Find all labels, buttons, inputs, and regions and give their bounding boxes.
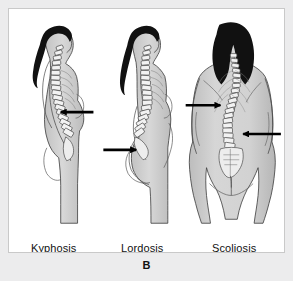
spinal-deformities-illustration [9,9,284,252]
figure-label-scoliosis: Scoliosis [212,242,256,253]
figure-label-lordosis: Lordosis [121,242,163,253]
kyphosis-figure [33,26,94,224]
scoliosis-figure [186,22,281,223]
panel-letter: B [0,259,293,271]
figure-label-kyphosis: Kyphosis [31,242,76,253]
illustration-panel: Kyphosis Lordosis Scoliosis [8,8,285,253]
spinal-deformities-figure: Kyphosis Lordosis Scoliosis B [0,0,293,281]
lordosis-figure [103,26,172,224]
